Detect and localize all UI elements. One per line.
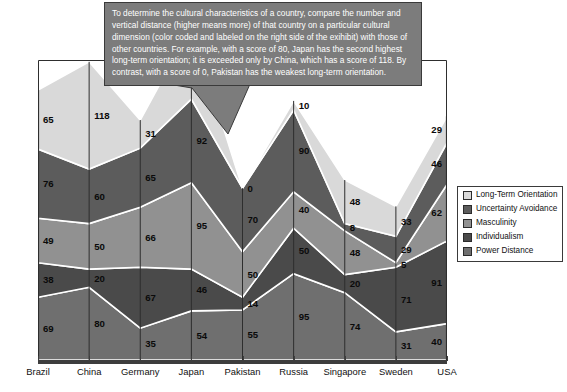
legend-item-label: Power Distance <box>476 247 533 255</box>
data-value-label: 118 <box>94 110 110 121</box>
data-value-label: 69 <box>43 323 54 334</box>
legend-item-label: Uncertainty Avoidance <box>476 205 557 213</box>
x-axis-tick <box>447 356 448 361</box>
callout-annotation: To determine the cultural characteristic… <box>104 2 422 86</box>
x-axis-tick <box>396 356 397 361</box>
data-value-label: 50 <box>248 269 259 280</box>
legend-item: Individualism <box>463 233 558 242</box>
data-value-label: 40 <box>431 336 442 347</box>
x-axis-label: Singapore <box>323 366 366 377</box>
data-value-label: 48 <box>350 196 361 207</box>
x-axis-label: Sweden <box>379 366 413 377</box>
data-value-label: 70 <box>248 214 259 225</box>
legend-swatch-icon <box>463 191 472 200</box>
data-value-label: 55 <box>248 329 259 340</box>
x-axis-label: Germany <box>121 366 160 377</box>
data-value-label: 50 <box>299 245 310 256</box>
data-value-label: 49 <box>43 235 54 246</box>
x-axis-tick <box>243 356 244 361</box>
data-value-label: 20 <box>94 273 105 284</box>
legend-item: Long-Term Orientation <box>463 191 558 200</box>
data-value-label: 20 <box>350 278 361 289</box>
legend-item: Masculinity <box>463 219 558 228</box>
data-value-label: 48 <box>350 247 361 258</box>
data-value-label: 31 <box>401 340 412 351</box>
callout-text: To determine the cultural characteristic… <box>112 8 407 77</box>
x-axis-tick <box>345 356 346 361</box>
data-value-label: 62 <box>431 207 442 218</box>
data-value-label: 74 <box>350 321 361 332</box>
data-value-label: 38 <box>43 274 54 285</box>
legend-item: Uncertainty Avoidance <box>463 205 558 214</box>
legend-swatch-icon <box>463 233 472 242</box>
cultural-dimensions-exhibit: 6980355455957431403820674614502071914950… <box>0 0 567 392</box>
legend-swatch-icon <box>463 219 472 228</box>
data-value-label: 76 <box>43 178 54 189</box>
data-value-label: 60 <box>94 191 105 202</box>
data-value-label: 71 <box>401 294 412 305</box>
data-value-label: 65 <box>43 114 54 125</box>
x-axis-label: USA <box>437 366 456 377</box>
data-value-label: 29 <box>431 124 442 135</box>
legend-item: Power Distance <box>463 247 558 256</box>
data-value-label: 10 <box>299 100 310 111</box>
legend-item-label: Individualism <box>476 233 523 241</box>
data-value-label: 50 <box>94 241 105 252</box>
data-value-label: 14 <box>248 298 259 309</box>
data-value-label: 91 <box>431 277 442 288</box>
x-axis-label: Brazil <box>26 366 49 377</box>
x-axis-tick <box>140 356 141 361</box>
legend-item-label: Masculinity <box>476 219 517 227</box>
data-value-label: 31 <box>145 128 156 139</box>
data-value-label: 8 <box>350 222 356 233</box>
data-value-label: 40 <box>299 204 310 215</box>
legend-swatch-icon <box>463 205 472 214</box>
chart-legend: Long-Term OrientationUncertainty Avoidan… <box>457 186 563 262</box>
legend-swatch-icon <box>463 247 472 256</box>
data-value-label: 54 <box>196 330 207 341</box>
data-value-label: 66 <box>145 232 156 243</box>
x-axis-label: China <box>77 366 102 377</box>
data-value-label: 67 <box>145 292 156 303</box>
data-value-label: 33 <box>401 216 412 227</box>
x-axis-tick <box>89 356 90 361</box>
data-value-label: 92 <box>196 135 207 146</box>
data-value-label: 80 <box>94 318 105 329</box>
data-value-label: 5 <box>401 259 407 270</box>
x-axis-label: Pakistan <box>225 366 261 377</box>
x-axis-tick <box>38 356 39 361</box>
data-value-label: 35 <box>145 338 156 349</box>
data-value-label: 29 <box>401 244 412 255</box>
x-axis-tick <box>294 356 295 361</box>
callout-tail-icon <box>168 84 250 134</box>
x-axis-category-labels: BrazilChinaGermanyJapanPakistanRussiaSin… <box>0 366 460 386</box>
data-value-label: 65 <box>145 172 156 183</box>
data-value-label: 0 <box>248 183 253 194</box>
x-axis-tick <box>191 356 192 361</box>
x-axis-label: Japan <box>179 366 205 377</box>
data-value-label: 90 <box>299 145 310 156</box>
data-value-label: 95 <box>299 311 310 322</box>
legend-item-label: Long-Term Orientation <box>476 191 557 199</box>
data-value-label: 95 <box>196 220 207 231</box>
data-value-label: 46 <box>431 158 442 169</box>
data-value-label: 46 <box>196 284 207 295</box>
x-axis-label: Russia <box>279 366 308 377</box>
